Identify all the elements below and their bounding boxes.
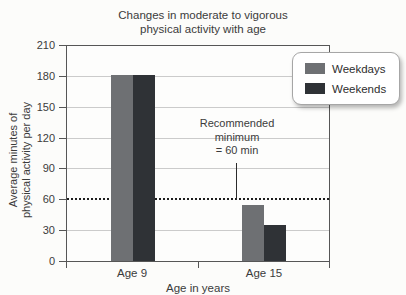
x-category-label-age-9: Age 9 xyxy=(100,267,164,279)
y-tick-label-150: 150 xyxy=(28,102,55,113)
gridline-30 xyxy=(67,230,329,231)
y-tick-label-180: 180 xyxy=(28,71,55,82)
weekends-swatch xyxy=(305,83,325,94)
y-tick-label-30: 30 xyxy=(28,225,55,236)
bar-age-15-weekdays xyxy=(242,205,264,261)
x-tick-0 xyxy=(66,262,67,268)
x-axis-label: Age in years xyxy=(66,282,330,294)
y-tick-210 xyxy=(59,45,66,46)
bar-age-15-weekends xyxy=(264,225,286,261)
x-tick-1 xyxy=(198,262,199,268)
y-tick-label-0: 0 xyxy=(28,256,55,267)
bar-age-9-weekends xyxy=(133,75,155,261)
y-tick-60 xyxy=(59,199,66,200)
y-tick-0 xyxy=(59,261,66,262)
y-tick-150 xyxy=(59,107,66,108)
legend-label-weekdays: Weekdays xyxy=(332,63,385,75)
bar-age-9-weekdays xyxy=(111,75,133,261)
legend-label-weekends: Weekends xyxy=(332,83,386,95)
physical-activity-bar-chart: Changes in moderate to vigorous physical… xyxy=(0,0,406,295)
gridline-90 xyxy=(67,168,329,169)
gridline-180 xyxy=(67,76,329,77)
y-tick-label-210: 210 xyxy=(28,40,55,51)
gridline-150 xyxy=(67,107,329,108)
legend-item-weekends: Weekends xyxy=(305,82,386,95)
recommended-minimum-line xyxy=(67,198,329,200)
y-tick-label-60: 60 xyxy=(28,194,55,205)
y-tick-label-90: 90 xyxy=(28,163,55,174)
x-category-label-age-15: Age 15 xyxy=(232,267,296,279)
legend: Weekdays Weekends xyxy=(292,52,400,105)
legend-item-weekdays: Weekdays xyxy=(305,62,385,75)
y-tick-90 xyxy=(59,168,66,169)
y-tick-120 xyxy=(59,138,66,139)
x-tick-2 xyxy=(329,262,330,268)
y-tick-30 xyxy=(59,230,66,231)
annotation-pointer-line xyxy=(236,163,237,200)
chart-title: Changes in moderate to vigorous physical… xyxy=(0,9,406,36)
y-tick-label-120: 120 xyxy=(28,133,55,144)
recommended-minimum-annotation: Recommended minimum = 60 min xyxy=(181,117,293,158)
weekdays-swatch xyxy=(305,63,325,74)
y-tick-180 xyxy=(59,76,66,77)
